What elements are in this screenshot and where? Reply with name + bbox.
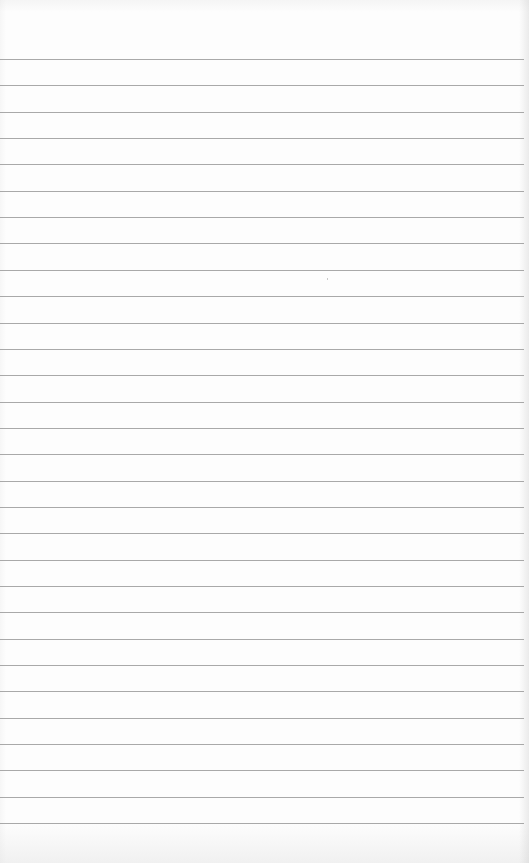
ruled-line: [0, 296, 524, 297]
ruled-line: [0, 191, 524, 192]
ruled-line: [0, 323, 524, 324]
ruled-line: [0, 112, 524, 113]
ruled-line: [0, 691, 524, 692]
ruled-line: [0, 428, 524, 429]
ruled-line: [0, 639, 524, 640]
ruled-line: [0, 586, 524, 587]
ruled-line: [0, 164, 524, 165]
ruled-line: [0, 770, 524, 771]
ruled-line: [0, 533, 524, 534]
ruled-line: [0, 744, 524, 745]
paper-speck: [327, 278, 328, 280]
ruled-line: [0, 59, 524, 60]
ruled-line: [0, 270, 524, 271]
lined-paper-sheet: [0, 0, 529, 863]
ruled-line: [0, 375, 524, 376]
ruled-line: [0, 823, 524, 824]
ruled-line: [0, 481, 524, 482]
ruled-line: [0, 507, 524, 508]
ruled-line: [0, 243, 524, 244]
ruled-line: [0, 560, 524, 561]
ruled-line: [0, 797, 524, 798]
ruled-line: [0, 665, 524, 666]
ruled-line: [0, 85, 524, 86]
ruled-line: [0, 402, 524, 403]
ruled-line: [0, 718, 524, 719]
ruled-line: [0, 138, 524, 139]
ruled-line: [0, 349, 524, 350]
ruled-line: [0, 454, 524, 455]
ruled-line: [0, 612, 524, 613]
ruled-line: [0, 217, 524, 218]
